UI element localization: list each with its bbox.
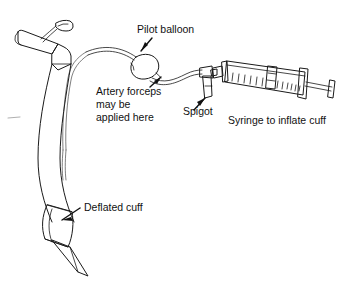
label-spigot: Spigot [183, 105, 213, 117]
deflated-cuff [43, 205, 73, 247]
label-deflated-cuff: Deflated cuff [84, 201, 143, 213]
bevelled-tip [52, 240, 88, 276]
leader-pilot-balloon [141, 38, 152, 51]
label-artery-forceps-line-2: may be [96, 98, 131, 110]
tube-shaft [38, 64, 74, 222]
pilot-balloon [131, 54, 161, 79]
syringe [213, 61, 335, 99]
spigot [200, 66, 217, 98]
label-syringe: Syringe to inflate cuff [228, 114, 326, 126]
label-artery-forceps-line-1: Artery forceps [96, 85, 161, 97]
endotracheal-tube-figure: Endotracheal tube with pilot balloon, sp… [0, 0, 351, 282]
scan-artifact [8, 117, 20, 118]
label-artery-forceps-line-3: applied here [96, 111, 154, 123]
diagram-canvas: Endotracheal tube with pilot balloon, sp… [0, 0, 351, 282]
label-pilot-balloon: Pilot balloon [137, 23, 194, 35]
tube-connector [15, 20, 73, 70]
